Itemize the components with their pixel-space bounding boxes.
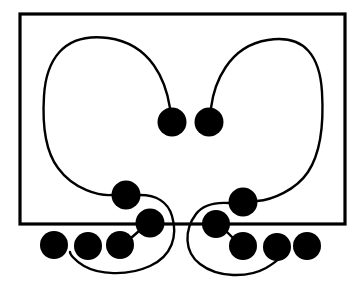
left-main-curve [44, 37, 170, 195]
right-mid-node [229, 188, 258, 217]
left-mid-node [112, 181, 141, 210]
left-bottom-node-a [40, 231, 68, 259]
left-node-connector [131, 231, 139, 238]
right-bottom-node-a [229, 232, 257, 260]
right-node-connector [227, 232, 233, 238]
left-inner-node [136, 209, 165, 238]
left-bottom-node-b [74, 232, 102, 260]
center-right-node [195, 108, 224, 137]
center-left-node [158, 108, 187, 137]
node-group [40, 108, 321, 262]
figure-root: Mirrored curve and node diagram [0, 0, 364, 285]
figure-canvas [0, 0, 364, 285]
right-bottom-node-c [293, 232, 321, 260]
right-main-curve [211, 39, 322, 201]
right-bottom-node-b [263, 233, 291, 261]
right-inner-node [202, 210, 230, 238]
left-bottom-node-c [106, 231, 134, 259]
